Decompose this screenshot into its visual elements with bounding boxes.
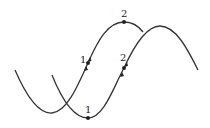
point-marker	[122, 20, 126, 24]
wave-diagram: 1221	[0, 0, 210, 128]
point-marker	[122, 66, 126, 70]
point-label: 1	[85, 104, 91, 115]
arrow-up-icon	[84, 66, 88, 71]
point-marker	[86, 116, 90, 120]
point-label: 2	[120, 52, 126, 63]
wave-b-curve	[52, 26, 198, 118]
point-label: 2	[121, 8, 127, 19]
point-label: 1	[80, 54, 86, 65]
point-marker	[86, 61, 90, 65]
